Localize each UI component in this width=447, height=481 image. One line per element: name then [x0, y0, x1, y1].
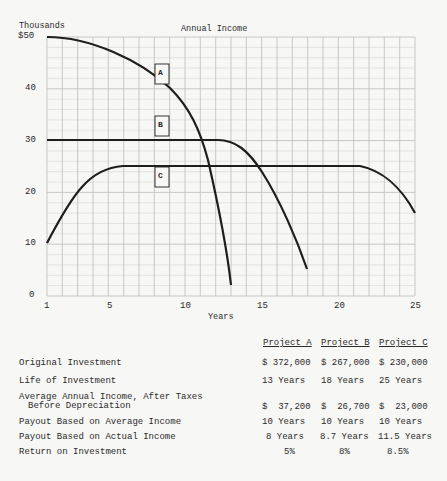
cell-c: 25 Years	[379, 376, 422, 386]
cell-c: $ 23,000	[379, 402, 428, 412]
curve-b	[47, 140, 307, 269]
curve-label-a: A	[158, 68, 163, 77]
row-label: Payout Based on Actual Income	[19, 432, 176, 442]
curve-label-c: C	[158, 171, 163, 180]
row-label-continued: Before Depreciation	[28, 401, 131, 411]
cell-a: 10 Years	[262, 417, 305, 427]
cell-b: 8.7 Years	[320, 432, 369, 442]
cell-c: $ 230,000	[379, 358, 428, 368]
cell-c: 11.5 Years	[378, 432, 432, 442]
cell-a: 5%	[284, 447, 295, 457]
cell-b: 18 Years	[321, 376, 364, 386]
cell-c: 10 Years	[379, 417, 422, 427]
curve-label-b: B	[158, 120, 163, 129]
cell-b: $ 267,000	[321, 358, 370, 368]
row-label: Original Investment	[19, 358, 122, 368]
cell-b: 8%	[339, 447, 350, 457]
row-label: Life of Investment	[19, 376, 116, 386]
cell-a: 8 Years	[266, 432, 304, 442]
cell-b: 10 Years	[321, 417, 364, 427]
col-header-project-c: Project C	[379, 338, 428, 348]
col-header-project-b: Project B	[321, 338, 370, 348]
cell-b: $ 26,700	[321, 402, 370, 412]
cell-c: 8.5%	[387, 447, 409, 457]
col-header-project-a: Project A	[263, 338, 312, 348]
cell-a: $ 37,200	[262, 402, 311, 412]
cell-a: 13 Years	[262, 376, 305, 386]
cell-a: $ 372,000	[262, 358, 311, 368]
row-label: Return on Investment	[19, 447, 127, 457]
row-label: Payout Based on Average Income	[19, 417, 181, 427]
